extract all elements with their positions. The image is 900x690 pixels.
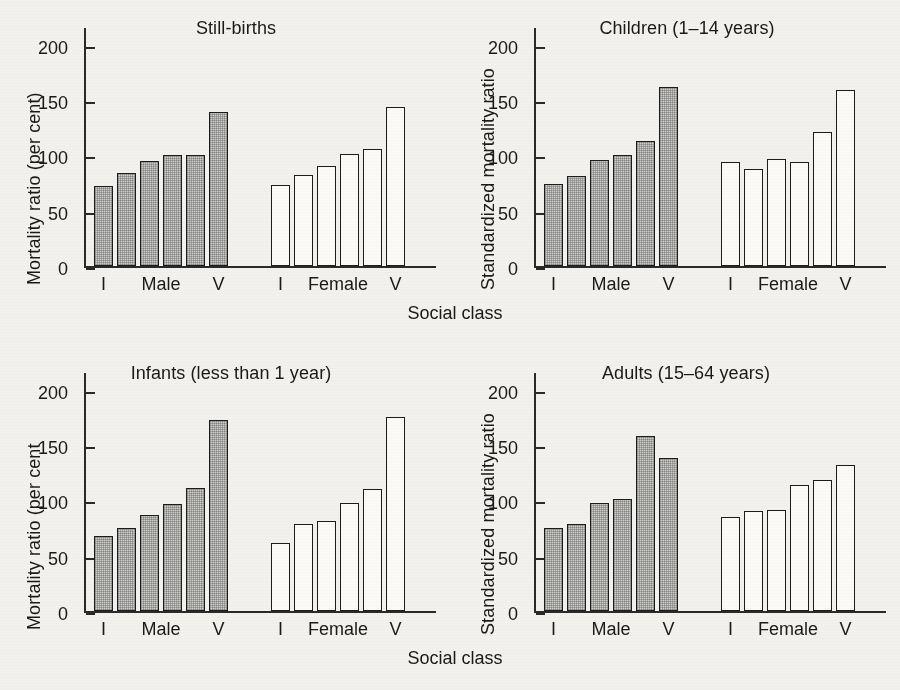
bar-female-II <box>744 511 763 611</box>
x-label-female-V: V <box>389 619 401 640</box>
bar-female-I <box>721 517 740 611</box>
x-label-female-I: I <box>278 619 283 640</box>
panel-infants: Infants (less than 1 year) Mortality rat… <box>0 345 450 690</box>
bar-female-II <box>294 524 313 611</box>
bar-male-V <box>659 87 678 266</box>
x-axis-line <box>84 611 436 613</box>
bar-group <box>536 28 886 266</box>
bar-female-IIIN <box>767 510 786 611</box>
bar-female-V <box>836 90 855 266</box>
bar-male-IIIN <box>140 161 159 266</box>
bar-male-I <box>544 528 563 611</box>
plot-area-still-births: 050100150200 <box>84 28 436 268</box>
bar-male-I <box>94 536 113 611</box>
y-tick-label: 50 <box>8 550 68 568</box>
bar-male-II <box>117 173 136 266</box>
panel-children: Children (1–14 years) Standardized morta… <box>450 0 900 345</box>
bar-male-IV <box>636 436 655 611</box>
bar-male-II <box>117 528 136 611</box>
x-label-group-male: Male <box>591 274 630 295</box>
x-label-group-male: Male <box>591 619 630 640</box>
y-tick-label: 150 <box>458 439 518 457</box>
x-label-female-V: V <box>839 274 851 295</box>
bar-female-IV <box>363 149 382 266</box>
bar-male-V <box>659 458 678 611</box>
bar-female-IIIM <box>340 503 359 611</box>
x-axis-line <box>534 266 886 268</box>
y-tick-mark <box>536 268 545 270</box>
y-tick-mark <box>86 268 95 270</box>
x-label-female-V: V <box>389 274 401 295</box>
bar-group <box>536 373 886 611</box>
bar-female-IV <box>813 480 832 611</box>
x-label-male-I: I <box>551 619 556 640</box>
bar-male-IV <box>636 141 655 266</box>
bar-male-IIIM <box>613 499 632 611</box>
y-tick-label: 100 <box>458 494 518 512</box>
bar-female-IV <box>813 132 832 266</box>
x-axis-line <box>534 611 886 613</box>
x-label-group-female: Female <box>308 619 368 640</box>
bar-male-IIIM <box>163 155 182 266</box>
bar-female-V <box>836 465 855 611</box>
plot-area-children: 050100150200 <box>534 28 886 268</box>
x-label-male-V: V <box>662 274 674 295</box>
bar-female-I <box>721 162 740 266</box>
bar-male-IV <box>186 488 205 611</box>
panel-adults: Adults (15–64 years) Standardized mortal… <box>450 345 900 690</box>
y-tick-label: 50 <box>458 205 518 223</box>
x-label-female-I: I <box>728 274 733 295</box>
x-label-group-male: Male <box>141 274 180 295</box>
plot-area-adults: 050100150200 <box>534 373 886 613</box>
bar-female-IIIM <box>790 485 809 611</box>
bar-male-IIIN <box>590 160 609 266</box>
y-tick-label: 150 <box>8 439 68 457</box>
bar-female-IV <box>363 489 382 611</box>
bar-female-I <box>271 543 290 611</box>
x-label-male-V: V <box>212 274 224 295</box>
y-tick-label: 100 <box>8 149 68 167</box>
bar-male-IIIM <box>613 155 632 266</box>
bar-female-IIIN <box>317 166 336 266</box>
bar-male-II <box>567 176 586 266</box>
bar-male-I <box>94 186 113 266</box>
bar-female-IIIM <box>790 162 809 266</box>
x-label-male-I: I <box>101 619 106 640</box>
y-tick-label: 100 <box>8 494 68 512</box>
y-tick-mark <box>86 613 95 615</box>
panel-still-births: Still-births Mortality ratio (per cent) … <box>0 0 450 345</box>
x-label-male-I: I <box>101 274 106 295</box>
y-tick-label: 200 <box>458 384 518 402</box>
bar-male-V <box>209 420 228 612</box>
y-tick-label: 200 <box>8 39 68 57</box>
x-label-male-I: I <box>551 274 556 295</box>
bar-male-I <box>544 184 563 266</box>
y-tick-mark <box>536 613 545 615</box>
x-label-group-female: Female <box>758 274 818 295</box>
x-label-group-female: Female <box>308 274 368 295</box>
plot-area-infants: 050100150200 <box>84 373 436 613</box>
y-tick-label: 0 <box>458 260 518 278</box>
x-label-female-I: I <box>278 274 283 295</box>
y-tick-label: 0 <box>458 605 518 623</box>
x-label-group-male: Male <box>141 619 180 640</box>
figure-mortality-by-social-class: Still-births Mortality ratio (per cent) … <box>0 0 900 690</box>
bar-group <box>86 28 436 266</box>
y-tick-label: 200 <box>8 384 68 402</box>
bar-male-V <box>209 112 228 266</box>
bar-female-II <box>744 169 763 266</box>
y-tick-label: 200 <box>458 39 518 57</box>
y-tick-label: 50 <box>8 205 68 223</box>
x-label-male-V: V <box>212 619 224 640</box>
y-tick-label: 0 <box>8 605 68 623</box>
y-tick-label: 0 <box>8 260 68 278</box>
y-tick-label: 150 <box>8 94 68 112</box>
bar-male-IV <box>186 155 205 266</box>
x-label-male-V: V <box>662 619 674 640</box>
x-axis-title-top: Social class <box>407 303 502 324</box>
bar-male-IIIN <box>590 503 609 611</box>
bar-female-V <box>386 107 405 266</box>
x-axis-title-bottom: Social class <box>407 648 502 669</box>
bar-female-IIIN <box>767 159 786 266</box>
x-axis-line <box>84 266 436 268</box>
